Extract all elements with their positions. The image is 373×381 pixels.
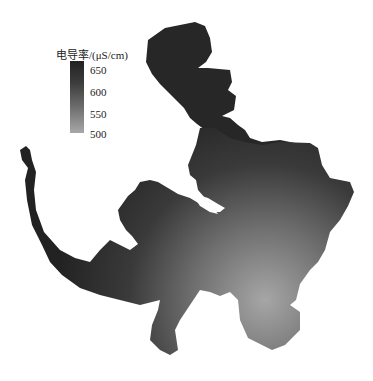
legend-tick-550: 550	[90, 108, 107, 120]
legend-tick-650: 650	[90, 64, 107, 76]
legend: 电导率/(μS/cm) 650 600 550 500	[56, 46, 146, 146]
legend-tick-500: 500	[90, 128, 107, 140]
legend-colorbar	[70, 61, 84, 133]
legend-title: 电导率/(μS/cm)	[56, 46, 128, 62]
legend-tick-600: 600	[90, 86, 107, 98]
